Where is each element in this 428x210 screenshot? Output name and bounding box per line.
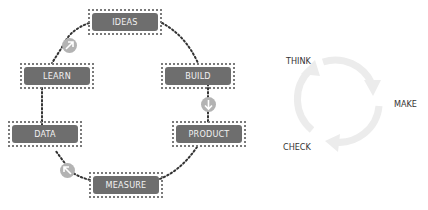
label-think: THINK [286,56,311,66]
diagram-canvas: IDEAS BUILD PRODUCT MEASURE DATA LEARN T… [0,0,428,210]
label-check: CHECK [283,142,311,152]
cycle-arrows [0,0,428,210]
label-make: MAKE [394,99,417,109]
